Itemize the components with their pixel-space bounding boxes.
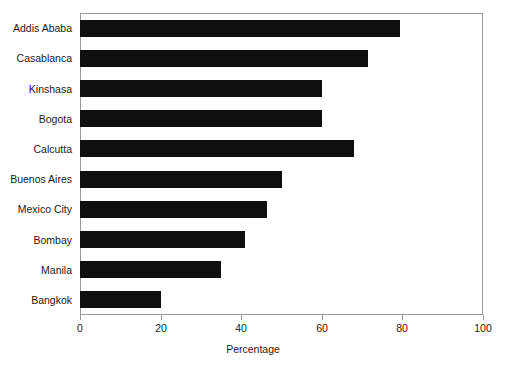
category-label-manila: Manila xyxy=(0,264,72,276)
bar-bogota xyxy=(80,110,322,127)
x-tick-mark-60 xyxy=(322,315,323,320)
bar-fill xyxy=(80,110,322,127)
x-tick-label-40: 40 xyxy=(221,322,261,334)
bar-buenos-aires xyxy=(80,171,282,188)
bar-kinshasa xyxy=(80,80,322,97)
bar-mexico-city xyxy=(80,201,267,218)
bar-calcutta xyxy=(80,140,354,157)
category-label-calcutta: Calcutta xyxy=(0,143,72,155)
category-label-bogota: Bogota xyxy=(0,113,72,125)
category-label-mexico-city: Mexico City xyxy=(0,203,72,215)
category-label-bangkok: Bangkok xyxy=(0,294,72,306)
x-tick-mark-20 xyxy=(161,315,162,320)
category-label-bombay: Bombay xyxy=(0,234,72,246)
bar-fill xyxy=(80,201,267,218)
category-label-buenos-aires: Buenos Aires xyxy=(0,173,72,185)
bar-fill xyxy=(80,80,322,97)
bar-fill xyxy=(80,231,245,248)
bar-fill xyxy=(80,50,368,67)
category-label-casablanca: Casablanca xyxy=(0,52,72,64)
x-tick-label-20: 20 xyxy=(141,322,181,334)
bar-fill xyxy=(80,20,400,37)
x-tick-mark-40 xyxy=(241,315,242,320)
bar-bombay xyxy=(80,231,245,248)
bar-bangkok xyxy=(80,291,161,308)
x-tick-label-80: 80 xyxy=(382,322,422,334)
bar-addis-ababa xyxy=(80,20,400,37)
x-tick-label-0: 0 xyxy=(60,322,100,334)
horizontal-bar-chart: Addis AbabaCasablancaKinshasaBogotaCalcu… xyxy=(0,0,506,368)
x-tick-label-60: 60 xyxy=(302,322,342,334)
category-label-kinshasa: Kinshasa xyxy=(0,83,72,95)
x-axis-title: Percentage xyxy=(0,343,506,356)
bar-manila xyxy=(80,261,221,278)
category-label-addis-ababa: Addis Ababa xyxy=(0,22,72,34)
x-tick-label-100: 100 xyxy=(463,322,503,334)
x-tick-mark-100 xyxy=(483,315,484,320)
bar-casablanca xyxy=(80,50,368,67)
x-tick-mark-0 xyxy=(80,315,81,320)
x-tick-mark-80 xyxy=(402,315,403,320)
bar-fill xyxy=(80,140,354,157)
bar-fill xyxy=(80,171,282,188)
bar-fill xyxy=(80,261,221,278)
bar-fill xyxy=(80,291,161,308)
